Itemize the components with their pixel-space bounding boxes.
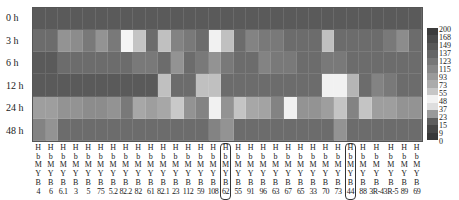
heatmap-cell: [246, 52, 259, 74]
heatmap-cell: [297, 74, 310, 96]
heatmap-cell: [121, 52, 134, 74]
heatmap-cell: [58, 74, 71, 96]
heatmap-cell: [133, 30, 146, 52]
column-label: HbMYB62: [219, 144, 231, 196]
heatmap-cell: [347, 74, 360, 96]
heatmap-cell: [309, 97, 322, 119]
heatmap-cell: [71, 119, 84, 141]
heatmap-cell: [409, 30, 422, 52]
heatmap-cell: [409, 74, 422, 96]
heatmap-cell: [334, 8, 347, 30]
legend-swatch: [427, 73, 438, 80]
heatmap-cell: [209, 30, 222, 52]
heatmap-cell: [384, 8, 397, 30]
heatmap-cell: [133, 74, 146, 96]
heatmap-cell: [297, 52, 310, 74]
heatmap-cell: [83, 30, 96, 52]
column-label: HbMYB55: [232, 144, 245, 196]
column-label: HbMYB82: [132, 144, 144, 196]
heatmap-cell: [297, 97, 310, 119]
highlight-box: [345, 143, 356, 200]
heatmap-cell: [309, 74, 322, 96]
heatmap-cell: [71, 74, 84, 96]
heatmap-cell: [372, 97, 385, 119]
heatmap-cell: [372, 30, 385, 52]
heatmap-cell: [271, 52, 284, 74]
heatmap-cell: [359, 8, 372, 30]
column-label: HbMYB70: [319, 144, 331, 196]
heatmap-cell: [309, 52, 322, 74]
heatmap-cell: [171, 8, 184, 30]
legend-swatch: [427, 80, 438, 87]
column-label: HbMYB75: [94, 144, 106, 196]
column-label: HbMYB23: [169, 144, 181, 196]
row-label: 3 h: [6, 30, 19, 53]
heatmap-cell: [347, 8, 360, 30]
heatmap-cell: [71, 30, 84, 52]
heatmap-cell: [146, 30, 159, 52]
heatmap-cell: [409, 52, 422, 74]
column-label: HbMYB3R-4: [369, 144, 383, 196]
legend-swatch: [427, 43, 438, 50]
heatmap-cell: [133, 119, 146, 141]
heatmap-cell: [158, 97, 171, 119]
heatmap-cell: [133, 97, 146, 119]
heatmap-cell: [196, 119, 209, 141]
heatmap-cell: [334, 119, 347, 141]
column-label: HbMYB59: [194, 144, 206, 196]
heatmap-cell: [409, 97, 422, 119]
column-label: HbMYB108: [207, 144, 219, 196]
heatmap-cell: [184, 8, 197, 30]
heatmap-cell: [221, 8, 234, 30]
heatmap-cell: [96, 52, 109, 74]
heatmap-cell: [121, 8, 134, 30]
row-label: 0 h: [6, 7, 19, 30]
row-label: 12 h: [6, 75, 24, 98]
heatmap-cell: [171, 97, 184, 119]
heatmap-cell: [372, 74, 385, 96]
heatmap-cell: [71, 8, 84, 30]
heatmap-cell: [259, 97, 272, 119]
heatmap-cell: [96, 8, 109, 30]
heatmap-cell: [347, 52, 360, 74]
heatmap-cell: [347, 30, 360, 52]
column-label: HbMYB91: [244, 144, 256, 196]
heatmap-cell: [234, 74, 247, 96]
heatmap-cell: [171, 52, 184, 74]
heatmap-cell: [259, 74, 272, 96]
column-label: HbMYB5.2: [107, 144, 120, 196]
heatmap-cell: [133, 52, 146, 74]
heatmap-cell: [397, 52, 410, 74]
heatmap-cell: [158, 119, 171, 141]
column-label: HbMYB4: [32, 144, 44, 196]
color-legend-labels: 2001681491371231159373554837231590: [439, 26, 459, 142]
heatmap-cell: [171, 74, 184, 96]
heatmap-cell: [359, 30, 372, 52]
heatmap-cell: [71, 97, 84, 119]
column-label: HbMYB3: [69, 144, 82, 196]
heatmap-cell: [46, 74, 59, 96]
heatmap-cell: [234, 30, 247, 52]
heatmap-cell: [259, 8, 272, 30]
heatmap-cell: [384, 119, 397, 141]
heatmap-cell: [33, 30, 46, 52]
heatmap-cell: [83, 8, 96, 30]
heatmap-cell: [33, 8, 46, 30]
heatmap-cell: [121, 74, 134, 96]
column-label: HbMYB67: [282, 144, 294, 196]
heatmap-cell: [297, 119, 310, 141]
heatmap-cell: [221, 30, 234, 52]
heatmap-cell: [146, 74, 159, 96]
heatmap-cell: [108, 52, 121, 74]
heatmap-cell: [46, 119, 59, 141]
column-label: HbMYB65: [294, 144, 306, 196]
heatmap-cell: [108, 74, 121, 96]
heatmap-cell: [384, 74, 397, 96]
column-labels: HbMYB4HbMYB6HbMYB6.1HbMYB3HbMYB5HbMYB75H…: [32, 144, 423, 196]
column-label: HbMYB6: [44, 144, 56, 196]
heatmap-grid: [32, 7, 423, 142]
heatmap-cell: [83, 74, 96, 96]
heatmap-cell: [271, 97, 284, 119]
heatmap-cell: [334, 52, 347, 74]
heatmap-cell: [372, 119, 385, 141]
